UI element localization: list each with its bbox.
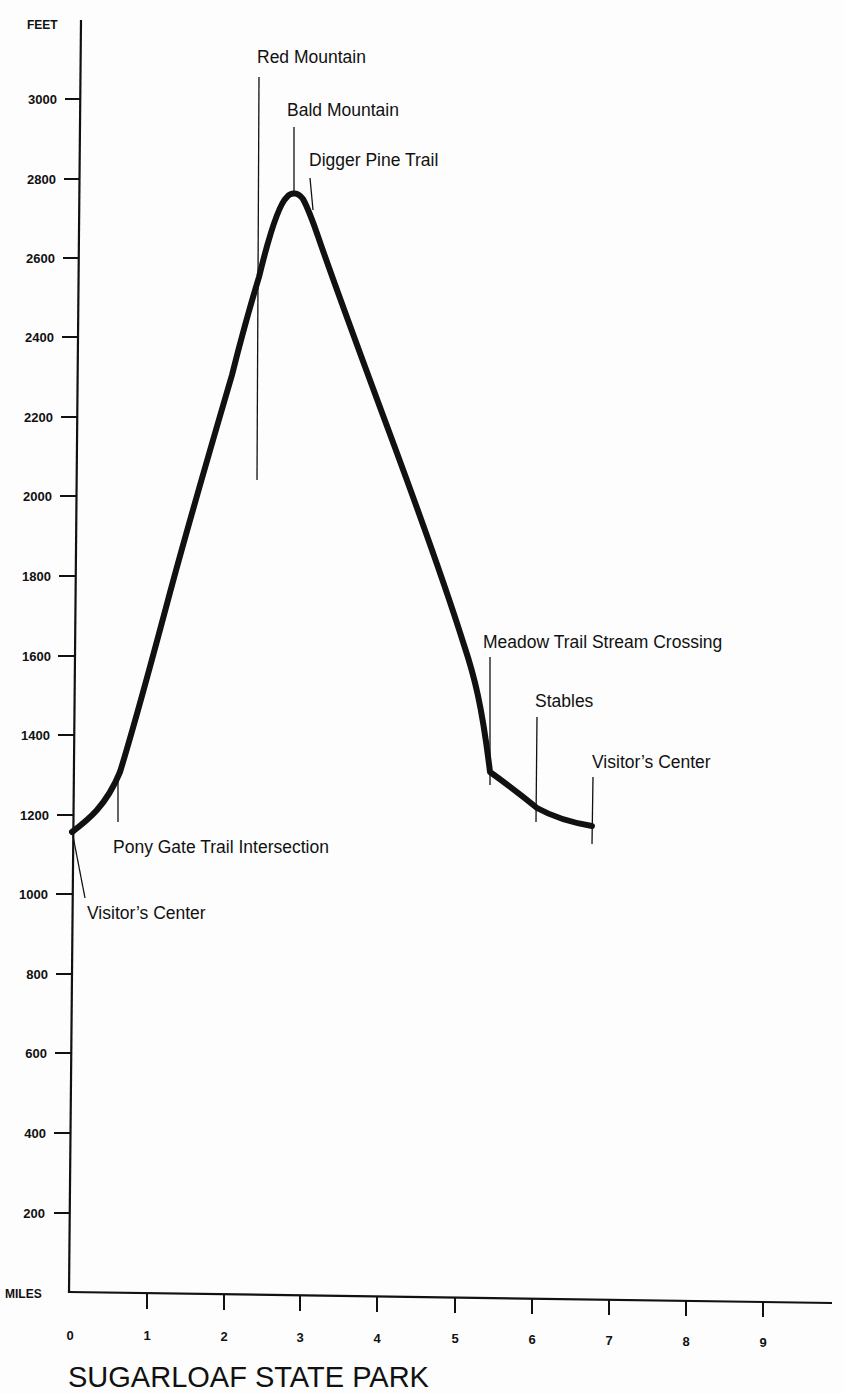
leader-digger-pine <box>310 178 313 210</box>
leader-red-mountain <box>257 77 259 480</box>
label-visitors-center-start: Visitor’s Center <box>87 903 206 923</box>
label-red-mountain: Red Mountain <box>257 47 366 67</box>
label-bald-mountain: Bald Mountain <box>287 100 399 120</box>
label-visitors-center-end: Visitor’s Center <box>592 752 711 772</box>
leader-visitor-start <box>73 836 85 898</box>
label-stables: Stables <box>535 691 594 711</box>
annotations-layer: Red Mountain Bald Mountain Digger Pine T… <box>0 0 844 1394</box>
label-meadow-stream-crossing: Meadow Trail Stream Crossing <box>483 632 722 652</box>
label-pony-gate-intersection: Pony Gate Trail Intersection <box>113 837 329 857</box>
leader-visitor-end <box>592 777 593 844</box>
leader-stables <box>536 717 537 822</box>
chart-title: SUGARLOAF STATE PARK <box>68 1361 430 1393</box>
label-digger-pine-trail: Digger Pine Trail <box>309 150 438 170</box>
